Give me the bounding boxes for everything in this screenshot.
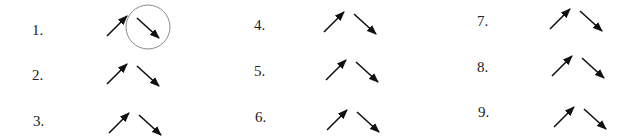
- up-right-arrow-icon: [324, 12, 344, 32]
- arrow-pair: [327, 110, 379, 132]
- up-right-arrow-icon: [550, 9, 570, 29]
- up-right-arrow-icon: [554, 107, 574, 127]
- down-right-arrow-icon: [137, 66, 159, 86]
- up-right-arrow-icon: [552, 56, 572, 76]
- arrow-pair: [107, 5, 170, 49]
- up-right-arrow-icon: [107, 16, 127, 36]
- down-right-arrow-icon: [139, 115, 161, 135]
- arrow-pair: [550, 9, 602, 31]
- up-right-arrow-icon: [327, 110, 347, 130]
- down-right-arrow-icon: [580, 11, 602, 31]
- arrow-diagram: [0, 0, 634, 137]
- down-right-arrow-icon: [354, 14, 376, 34]
- arrow-pair: [326, 60, 378, 82]
- arrow-pair: [324, 12, 376, 34]
- arrow-pair: [552, 56, 604, 78]
- down-right-arrow-icon: [137, 18, 159, 38]
- arrow-pair: [109, 113, 161, 135]
- up-right-arrow-icon: [326, 60, 346, 80]
- down-right-arrow-icon: [584, 109, 606, 129]
- down-right-arrow-icon: [582, 58, 604, 78]
- down-right-arrow-icon: [357, 112, 379, 132]
- up-right-arrow-icon: [109, 113, 129, 133]
- arrow-pair: [107, 64, 159, 86]
- arrow-pair: [554, 107, 606, 129]
- up-right-arrow-icon: [107, 64, 127, 84]
- down-right-arrow-icon: [356, 62, 378, 82]
